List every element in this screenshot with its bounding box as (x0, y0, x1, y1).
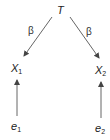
edge-T-X1 (24, 17, 52, 56)
node-e1: e1 (11, 121, 21, 133)
edge-label-T-X2: β (86, 27, 92, 37)
node-e2: e2 (95, 123, 105, 135)
node-X2: X2 (95, 65, 106, 77)
edge-T-X2 (70, 17, 99, 58)
edge-label-T-X1: β (28, 26, 34, 36)
node-T: T (57, 5, 64, 16)
node-X1: X1 (11, 63, 22, 75)
